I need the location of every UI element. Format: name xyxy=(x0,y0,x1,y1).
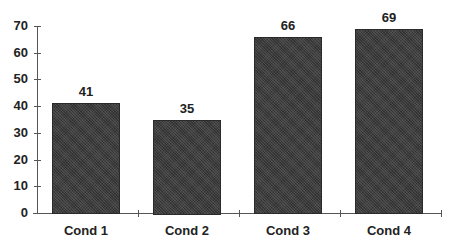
bar-cond-3 xyxy=(254,37,322,214)
value-label: 69 xyxy=(355,10,423,25)
bar-cond-1 xyxy=(52,103,120,214)
y-tick-label: 0 xyxy=(2,206,28,220)
y-tick xyxy=(34,186,41,187)
y-tick-label: 40 xyxy=(2,99,28,113)
x-tick xyxy=(138,210,139,217)
y-tick xyxy=(34,79,41,80)
x-tick-label: Cond 3 xyxy=(238,223,338,238)
y-tick xyxy=(34,213,41,214)
y-tick xyxy=(34,133,41,134)
x-tick-label: Cond 1 xyxy=(36,223,136,238)
value-label: 35 xyxy=(153,101,221,116)
x-tick-label: Cond 2 xyxy=(137,223,237,238)
x-tick xyxy=(441,210,442,217)
y-tick-label: 70 xyxy=(2,19,28,33)
y-tick-label: 50 xyxy=(2,72,28,86)
y-tick-label: 20 xyxy=(2,153,28,167)
bar-cond-4 xyxy=(355,29,423,214)
y-tick xyxy=(34,26,41,27)
x-tick-label: Cond 4 xyxy=(339,223,439,238)
bar-chart: 01020304050607041Cond 135Cond 266Cond 36… xyxy=(0,0,450,249)
bar-cond-2 xyxy=(153,120,221,215)
y-tick-label: 30 xyxy=(2,126,28,140)
value-label: 66 xyxy=(254,18,322,33)
y-tick xyxy=(34,106,41,107)
value-label: 41 xyxy=(52,84,120,99)
x-tick xyxy=(340,210,341,217)
x-tick xyxy=(239,210,240,217)
y-tick xyxy=(34,53,41,54)
y-tick xyxy=(34,160,41,161)
y-tick-label: 10 xyxy=(2,179,28,193)
y-tick-label: 60 xyxy=(2,46,28,60)
